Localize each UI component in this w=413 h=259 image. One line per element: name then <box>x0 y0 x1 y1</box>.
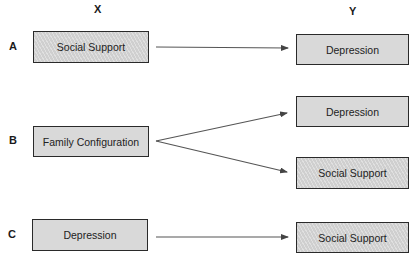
arrow-b-up <box>156 113 287 141</box>
arrow-b-down <box>156 141 287 172</box>
arrow-a <box>156 47 288 48</box>
arrows-layer <box>0 0 413 259</box>
